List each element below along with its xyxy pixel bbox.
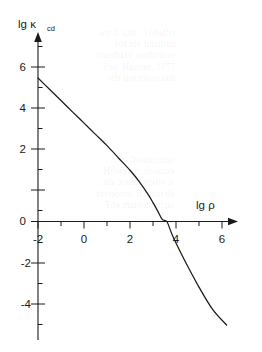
x-axis (38, 218, 238, 226)
y-tick-label: -4 (21, 298, 32, 310)
x-axis-title-group: lg ρ (196, 199, 215, 211)
line-chart: -2 0 2 4 6 6 4 2 (0, 0, 262, 352)
y-tick-label: 0 (20, 215, 26, 227)
y-tick-label: 4 (20, 102, 27, 114)
y-axis-title-group: lg κ cd (18, 18, 55, 33)
x-tick-labels: -2 0 2 4 6 (33, 233, 225, 245)
x-tick-label: 2 (127, 233, 133, 245)
y-tick-label: 6 (20, 61, 26, 73)
x-axis-arrow-icon (228, 218, 238, 226)
y-axis-title-subscript: cd (47, 24, 55, 33)
y-tick-label: -2 (21, 257, 31, 269)
x-axis-ticks (38, 222, 222, 229)
y-axis-arrow-icon (34, 32, 42, 42)
x-tick-label: -2 (33, 233, 43, 245)
y-axis-title: lg κ (18, 18, 36, 30)
x-tick-label: 0 (81, 233, 87, 245)
y-tick-labels: 6 4 2 0 -2 -4 (20, 61, 32, 310)
figure-container: ydaeb) i dna ,h tiw noitcnuf eht rof sno… (0, 0, 262, 352)
y-tick-label: 2 (20, 143, 26, 155)
x-tick-label: 6 (219, 233, 225, 245)
x-axis-title: lg ρ (196, 199, 215, 211)
